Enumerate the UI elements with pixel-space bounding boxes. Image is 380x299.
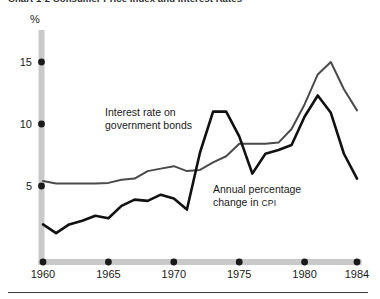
annotation-interest-rate-line1: Interest rate on — [105, 106, 227, 119]
x-tick-label-1960: 1960 — [23, 268, 63, 281]
bottom-divider — [8, 292, 368, 293]
x-tick-label-1980: 1980 — [285, 268, 325, 281]
annotation-cpi-line2-prefix: change in — [213, 196, 261, 208]
y-tick-label-5: 5 — [8, 180, 32, 192]
y-tick-label-15: 15 — [8, 56, 32, 68]
x-tick-dot-1965 — [105, 259, 112, 266]
plot-area — [0, 0, 380, 299]
annotation-cpi: Annual percentage change in CPI — [213, 183, 343, 209]
x-tick-label-1984: 1984 — [337, 268, 377, 281]
x-tick-label-1970: 1970 — [154, 268, 194, 281]
x-tick-dot-1984 — [354, 259, 361, 266]
annotation-interest-rate-line2: government bonds — [105, 119, 227, 132]
annotation-cpi-acronym: CPI — [261, 198, 276, 208]
annotation-interest-rate: Interest rate on government bonds — [105, 106, 227, 131]
annotation-cpi-line1: Annual percentage — [213, 183, 343, 196]
x-tick-label-1975: 1975 — [219, 268, 259, 281]
x-tick-dot-1975 — [236, 259, 243, 266]
x-tick-dot-1960 — [40, 259, 47, 266]
x-tick-label-1965: 1965 — [88, 268, 128, 281]
y-tick-dot-5 — [38, 183, 45, 190]
y-tick-dot-15 — [38, 59, 45, 66]
x-axis-bar — [39, 259, 362, 265]
y-tick-label-10: 10 — [8, 118, 32, 130]
x-tick-dot-1970 — [170, 259, 177, 266]
annotation-cpi-line2: change in CPI — [213, 196, 343, 210]
chart-figure: Chart 1-2 Consumer Price Index and Inter… — [0, 0, 380, 299]
y-tick-dot-10 — [38, 121, 45, 128]
x-tick-dot-1980 — [301, 259, 308, 266]
